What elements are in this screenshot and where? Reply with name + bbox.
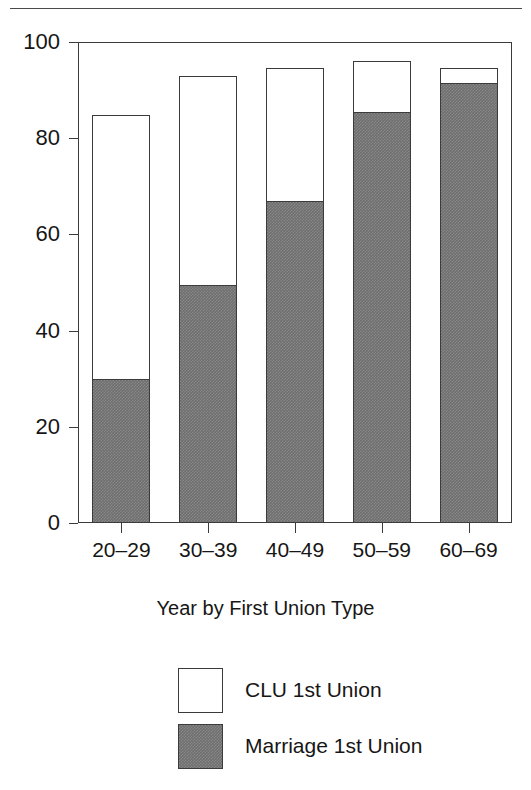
y-tick-mark — [69, 42, 78, 43]
x-tick-mark — [208, 523, 209, 533]
x-tick-mark — [469, 523, 470, 533]
y-tick-mark — [69, 234, 78, 235]
y-tick-label: 0 — [0, 512, 60, 534]
bar-segment-marriage — [92, 379, 150, 523]
y-tick-mark — [69, 427, 78, 428]
y-tick-label: 60 — [0, 223, 60, 245]
bar-segment-marriage — [440, 83, 498, 523]
x-tick-mark — [121, 523, 122, 533]
legend-item-marriage: Marriage 1st Union — [178, 718, 518, 774]
top-horizontal-rule — [10, 8, 522, 9]
x-tick-label: 60–69 — [414, 538, 524, 562]
bar-segment-marriage — [179, 285, 237, 523]
legend-swatch-clu-icon — [178, 668, 223, 713]
x-tick-mark — [382, 523, 383, 533]
y-tick-label: 20 — [0, 416, 60, 438]
legend-label-marriage: Marriage 1st Union — [245, 734, 422, 758]
y-tick-label: 100 — [0, 31, 60, 53]
legend-swatch-marriage-icon — [178, 724, 223, 769]
bar-segment-marriage — [353, 112, 411, 523]
y-tick-mark — [69, 331, 78, 332]
x-tick-mark — [295, 523, 296, 533]
y-tick-mark — [69, 523, 78, 524]
chart-legend: CLU 1st Union Marriage 1st Union — [178, 662, 518, 774]
y-tick-label: 80 — [0, 127, 60, 149]
bar-segment-marriage — [266, 201, 324, 523]
stacked-bar-chart-figure: g, 020406080100 20–2930–3940–4950–5960–6… — [0, 0, 531, 790]
y-tick-mark — [69, 138, 78, 139]
legend-item-clu: CLU 1st Union — [178, 662, 518, 718]
x-axis-title: Year by First Union Type — [0, 596, 531, 620]
y-tick-label: 40 — [0, 320, 60, 342]
legend-label-clu: CLU 1st Union — [245, 678, 382, 702]
